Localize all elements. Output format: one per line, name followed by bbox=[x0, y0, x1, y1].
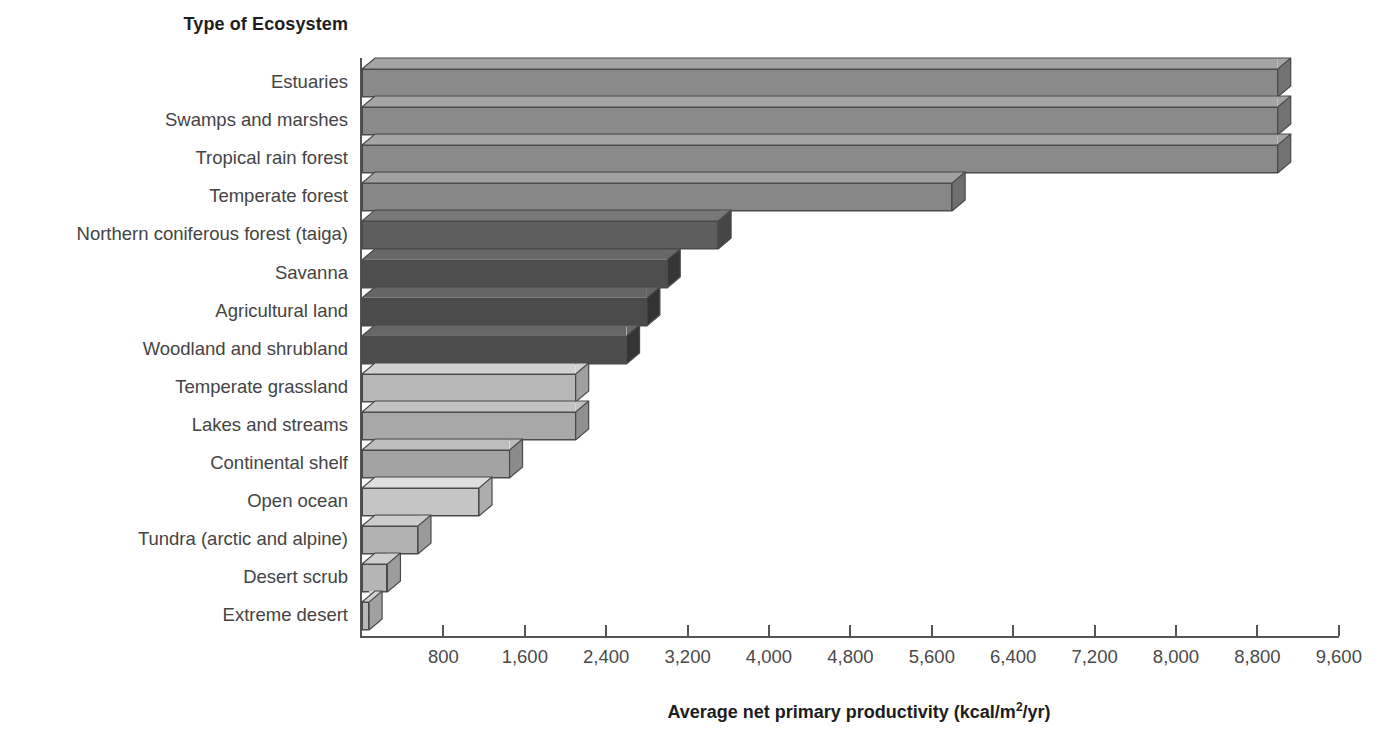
bar bbox=[362, 439, 523, 478]
chart-plot-area: EstuariesSwamps and marshesTropical rain… bbox=[0, 0, 1388, 744]
bar bbox=[362, 287, 660, 326]
value-axis-tick-label: 2,400 bbox=[583, 646, 629, 668]
value-axis-tick bbox=[931, 625, 933, 636]
bar-outline bbox=[362, 515, 431, 554]
value-axis-title-prefix: Average net primary productivity (kcal/m bbox=[667, 702, 1015, 722]
value-axis-title-suffix: /yr) bbox=[1023, 702, 1051, 722]
bar-outline bbox=[362, 58, 1291, 97]
category-label: Continental shelf bbox=[0, 454, 348, 473]
bar bbox=[362, 401, 589, 440]
value-axis-tick bbox=[1256, 625, 1258, 636]
bar-outline bbox=[362, 249, 680, 288]
bar-outline bbox=[362, 210, 731, 249]
bar-outline bbox=[362, 172, 965, 211]
value-axis-tick-label: 8,800 bbox=[1234, 646, 1280, 668]
value-axis-tick bbox=[524, 625, 526, 636]
bar bbox=[362, 172, 965, 211]
category-label: Northern coniferous forest (taiga) bbox=[0, 225, 348, 244]
bar bbox=[362, 58, 1291, 97]
bar bbox=[362, 325, 640, 364]
value-axis-title-superscript: 2 bbox=[1016, 700, 1023, 714]
value-axis-tick-label: 800 bbox=[428, 646, 459, 668]
category-label: Temperate grassland bbox=[0, 378, 348, 397]
bar-outline bbox=[362, 96, 1291, 135]
bar-outline bbox=[362, 287, 660, 326]
value-axis-tick-label: 3,200 bbox=[664, 646, 710, 668]
category-label: Open ocean bbox=[0, 492, 348, 511]
value-axis-tick bbox=[1338, 625, 1340, 636]
bar-outline bbox=[362, 553, 400, 592]
value-axis-tick bbox=[849, 625, 851, 636]
category-label: Lakes and streams bbox=[0, 416, 348, 435]
category-label: Extreme desert bbox=[0, 606, 348, 625]
value-axis-tick-label: 4,000 bbox=[746, 646, 792, 668]
bar-outline bbox=[362, 134, 1291, 173]
value-axis-tick-label: 7,200 bbox=[1071, 646, 1117, 668]
bar-outline bbox=[362, 363, 589, 402]
bar bbox=[362, 553, 400, 592]
bar bbox=[362, 134, 1291, 173]
value-axis-title: Average net primary productivity (kcal/m… bbox=[0, 702, 1388, 723]
value-axis-line bbox=[360, 636, 1339, 638]
bar bbox=[362, 515, 431, 554]
category-label: Woodland and shrubland bbox=[0, 340, 348, 359]
value-axis-tick-label: 9,600 bbox=[1316, 646, 1362, 668]
value-axis-tick bbox=[1175, 625, 1177, 636]
value-axis-tick-label: 1,600 bbox=[502, 646, 548, 668]
bar bbox=[362, 477, 492, 516]
value-axis-tick bbox=[687, 625, 689, 636]
bar-outline bbox=[362, 401, 589, 440]
value-axis-tick bbox=[605, 625, 607, 636]
value-axis-tick-label: 8,000 bbox=[1153, 646, 1199, 668]
category-label: Savanna bbox=[0, 264, 348, 283]
bar bbox=[362, 96, 1291, 135]
category-label: Estuaries bbox=[0, 73, 348, 92]
value-axis-tick-label: 5,600 bbox=[909, 646, 955, 668]
category-label: Agricultural land bbox=[0, 302, 348, 321]
bar bbox=[362, 210, 731, 249]
value-axis-tick bbox=[1012, 625, 1014, 636]
value-axis-tick-label: 4,800 bbox=[827, 646, 873, 668]
value-axis-tick bbox=[442, 625, 444, 636]
bar-outline bbox=[362, 477, 492, 516]
bar bbox=[362, 249, 680, 288]
bar bbox=[362, 591, 382, 630]
value-axis-tick-label: 6,400 bbox=[990, 646, 1036, 668]
category-label: Tropical rain forest bbox=[0, 149, 348, 168]
value-axis-tick bbox=[1094, 625, 1096, 636]
bar-outline bbox=[362, 325, 640, 364]
value-axis-tick bbox=[768, 625, 770, 636]
category-label: Tundra (arctic and alpine) bbox=[0, 530, 348, 549]
category-label: Desert scrub bbox=[0, 568, 348, 587]
category-label: Temperate forest bbox=[0, 187, 348, 206]
bar-outline bbox=[362, 439, 523, 478]
bar-outline bbox=[362, 591, 382, 630]
bar bbox=[362, 363, 589, 402]
category-label: Swamps and marshes bbox=[0, 111, 348, 130]
